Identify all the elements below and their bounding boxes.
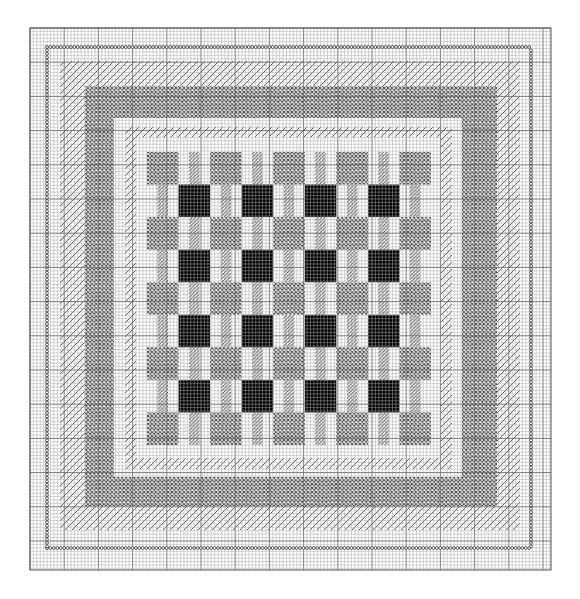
circle-stitch (530, 193, 533, 196)
circle-stitch (46, 521, 49, 524)
circle-stitch (528, 46, 531, 49)
circle-stitch (530, 203, 533, 206)
circle-stitch (530, 206, 533, 209)
circle-stitch (80, 46, 83, 49)
circle-stitch (268, 46, 271, 49)
circle-stitch (530, 446, 533, 449)
circle-stitch (456, 46, 459, 49)
circle-stitch (530, 538, 533, 541)
circle-stitch (439, 46, 442, 49)
circle-stitch (302, 46, 305, 49)
circle-stitch (405, 46, 408, 49)
circle-stitch (411, 547, 414, 550)
circle-stitch (530, 473, 533, 476)
circle-stitch (206, 46, 209, 49)
circle-stitch (530, 309, 533, 312)
circle-stitch (46, 288, 49, 291)
circle-stitch (530, 165, 533, 168)
circle-stitch (401, 46, 404, 49)
circle-stitch (530, 545, 533, 548)
circle-stitch (530, 305, 533, 308)
circle-stitch (128, 547, 131, 550)
circle-stitch (46, 401, 49, 404)
circle-stitch (530, 432, 533, 435)
circle-stitch (530, 374, 533, 377)
circle-stitch (357, 46, 360, 49)
circle-stitch (46, 97, 49, 100)
circle-stitch (261, 46, 264, 49)
circle-stitch (46, 114, 49, 117)
circle-stitch (251, 547, 254, 550)
circle-stitch (227, 547, 230, 550)
circle-stitch (46, 83, 49, 86)
circle-stitch (360, 46, 363, 49)
circle-stitch (521, 547, 524, 550)
circle-stitch (162, 547, 165, 550)
circle-stitch (46, 319, 49, 322)
circle-stitch (483, 46, 486, 49)
circle-stitch (507, 547, 510, 550)
circle-stitch (138, 547, 141, 550)
circle-stitch (46, 312, 49, 315)
circle-stitch (73, 547, 76, 550)
circle-stitch (530, 470, 533, 473)
circle-stitch (530, 541, 533, 544)
needlepoint-chart (0, 0, 580, 599)
circle-stitch (530, 93, 533, 96)
circle-stitch (391, 46, 394, 49)
circle-stitch (285, 46, 288, 49)
circle-stitch (288, 547, 291, 550)
circle-stitch (530, 422, 533, 425)
circle-stitch (456, 547, 459, 550)
circle-stitch (530, 353, 533, 356)
circle-stitch (530, 172, 533, 175)
circle-stitch (179, 547, 182, 550)
circle-stitch (514, 46, 517, 49)
circle-stitch (46, 261, 49, 264)
circle-stitch (494, 46, 497, 49)
circle-stitch (52, 547, 55, 550)
circle-stitch (418, 46, 421, 49)
circle-stitch (530, 394, 533, 397)
circle-stitch (530, 388, 533, 391)
circle-stitch (46, 282, 49, 285)
circle-stitch (530, 463, 533, 466)
circle-stitch (530, 213, 533, 216)
circle-stitch (56, 46, 59, 49)
circle-stitch (530, 66, 533, 69)
circle-stitch (530, 524, 533, 527)
circle-stitch (114, 547, 117, 550)
circle-stitch (530, 535, 533, 538)
circle-stitch (46, 524, 49, 527)
circle-stitch (292, 547, 295, 550)
circle-stitch (46, 453, 49, 456)
circle-stitch (97, 547, 100, 550)
circle-stitch (247, 46, 250, 49)
circle-stitch (46, 377, 49, 380)
circle-stitch (530, 504, 533, 507)
circle-stitch (189, 46, 192, 49)
gray-square (399, 347, 431, 380)
circle-stitch (46, 107, 49, 110)
circle-stitch (46, 374, 49, 377)
circle-stitch (196, 46, 199, 49)
circle-stitch (100, 547, 103, 550)
circle-stitch (530, 429, 533, 432)
circle-stitch (530, 302, 533, 305)
circle-stitch (87, 547, 90, 550)
circle-stitch (530, 292, 533, 295)
hatch-stripe (252, 347, 263, 380)
circle-stitch (100, 46, 103, 49)
circle-stitch (46, 158, 49, 161)
circle-stitch (530, 418, 533, 421)
circle-stitch (223, 46, 226, 49)
circle-stitch (275, 46, 278, 49)
circle-stitch (449, 46, 452, 49)
circle-stitch (530, 271, 533, 274)
circle-stitch (530, 326, 533, 329)
circle-stitch (182, 46, 185, 49)
circle-stitch (111, 547, 114, 550)
hatch-stripe (252, 282, 263, 315)
circle-stitch (210, 547, 213, 550)
circle-stitch (169, 547, 172, 550)
